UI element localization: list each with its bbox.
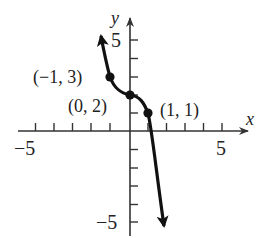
point-1-1 [143,108,152,117]
point-label-1-1: (1, 1) [160,100,199,121]
x-ticks [36,123,223,131]
point-label-0-2: (0, 2) [68,96,107,117]
y-axis-label: y [109,8,119,28]
point-label-neg1-3: (−1, 3) [33,67,82,88]
point-neg1-3 [105,72,114,81]
function-curve-upper [101,36,110,77]
y-tick-label-neg5: −5 [96,211,117,233]
x-tick-label-neg5: −5 [14,137,35,159]
function-curve [110,77,164,226]
point-0-2 [125,90,134,99]
x-axis-label: x [245,109,254,129]
x-tick-label-5: 5 [216,137,226,159]
y-tick-label-5: 5 [111,29,121,51]
graph: y x 5 −5 −5 5 (−1, 3) (0, 2) (1, 1) [0,0,267,238]
